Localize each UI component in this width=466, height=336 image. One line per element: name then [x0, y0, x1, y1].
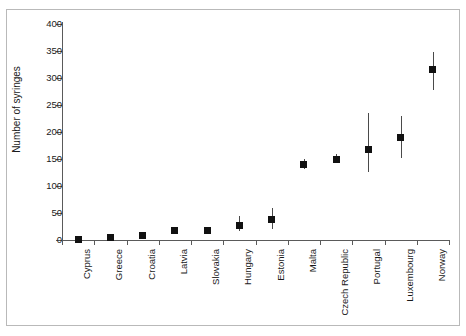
- y-axis-tick-label: 350: [18, 46, 62, 56]
- x-axis-category-label: Slovakia: [211, 249, 221, 285]
- y-axis-tick-label-wrap: 250: [0, 100, 62, 110]
- y-axis-tick-label: 300: [18, 73, 62, 83]
- x-axis-category-label: Croatia: [147, 249, 157, 280]
- data-point-marker: [300, 161, 307, 168]
- x-axis-category-label: Norway: [437, 249, 447, 281]
- y-axis-tick-label-wrap: 200: [0, 127, 62, 137]
- y-axis-tick-label: 0: [18, 235, 62, 245]
- data-point-marker: [365, 146, 372, 153]
- y-axis-tick-label: 100: [18, 181, 62, 191]
- x-axis-category-label: Cyprus: [82, 249, 92, 279]
- data-point-marker: [204, 227, 211, 234]
- x-axis-category-label: Malta: [308, 249, 318, 272]
- data-point-marker: [107, 234, 114, 241]
- y-axis-tick-label-wrap: 100: [0, 181, 62, 191]
- x-axis-category-label: Czech Republic: [340, 249, 350, 316]
- x-axis-category-label: Hungary: [243, 249, 253, 285]
- y-axis-tick-label-wrap: 150: [0, 154, 62, 164]
- y-axis-tick-label-wrap: 0: [0, 235, 62, 245]
- x-axis-tick: [449, 240, 450, 245]
- data-point-marker: [171, 227, 178, 234]
- x-axis-category-label: Estonia: [276, 249, 286, 281]
- y-axis-tick-label-wrap: 50: [0, 208, 62, 218]
- data-point-marker: [333, 156, 340, 163]
- x-axis-tick: [191, 240, 192, 245]
- data-point-marker: [75, 236, 82, 243]
- x-axis-tick: [159, 240, 160, 245]
- y-axis-line: [62, 22, 63, 242]
- data-point-marker: [139, 232, 146, 239]
- x-axis-tick: [62, 240, 63, 245]
- error-bar: [368, 113, 369, 172]
- x-axis-tick: [352, 240, 353, 245]
- x-axis-category-label: Latvia: [179, 249, 189, 274]
- x-axis-tick: [94, 240, 95, 245]
- y-axis-tick-label-wrap: 400: [0, 19, 62, 29]
- y-axis-tick-label: 400: [18, 19, 62, 29]
- plot-area: Number of syringes 050100150200250300350…: [0, 0, 466, 336]
- y-axis-tick-label: 250: [18, 100, 62, 110]
- y-axis-tick-label-wrap: 350: [0, 46, 62, 56]
- x-axis-category-label: Portugal: [372, 249, 382, 284]
- x-axis-tick: [320, 240, 321, 245]
- data-point-marker: [236, 222, 243, 229]
- y-axis-tick-label: 200: [18, 127, 62, 137]
- x-axis-tick: [127, 240, 128, 245]
- x-axis-tick: [256, 240, 257, 245]
- data-point-marker: [429, 66, 436, 73]
- x-axis-tick: [385, 240, 386, 245]
- x-axis-category-label: Greece: [114, 249, 124, 280]
- figure: Number of syringes 050100150200250300350…: [0, 0, 466, 336]
- x-axis-tick: [417, 240, 418, 245]
- x-axis-category-label: Luxembourg: [405, 249, 415, 302]
- y-axis-tick-label: 150: [18, 154, 62, 164]
- x-axis-tick: [223, 240, 224, 245]
- x-axis-tick: [288, 240, 289, 245]
- y-axis-tick-label: 50: [18, 208, 62, 218]
- data-point-marker: [397, 134, 404, 141]
- data-point-marker: [268, 216, 275, 223]
- y-axis-tick-label-wrap: 300: [0, 73, 62, 83]
